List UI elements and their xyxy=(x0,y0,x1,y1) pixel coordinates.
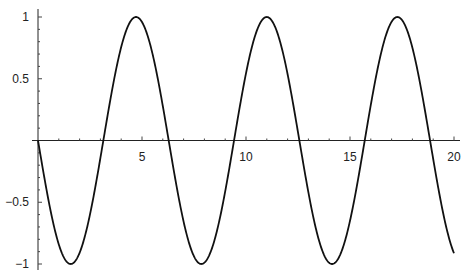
y-tick-label: −0.5 xyxy=(5,195,29,209)
x-tick-label: 20 xyxy=(447,150,461,164)
line-chart: 510152010.5−0.5−1 xyxy=(0,0,465,271)
x-tick-label: 15 xyxy=(343,150,357,164)
x-tick-label: 5 xyxy=(139,150,146,164)
axes: 510152010.5−0.5−1 xyxy=(5,9,461,271)
y-tick-label: −1 xyxy=(15,257,29,271)
y-tick-label: 0.5 xyxy=(12,72,29,86)
x-tick-label: 10 xyxy=(239,150,253,164)
y-tick-label: 1 xyxy=(22,10,29,24)
